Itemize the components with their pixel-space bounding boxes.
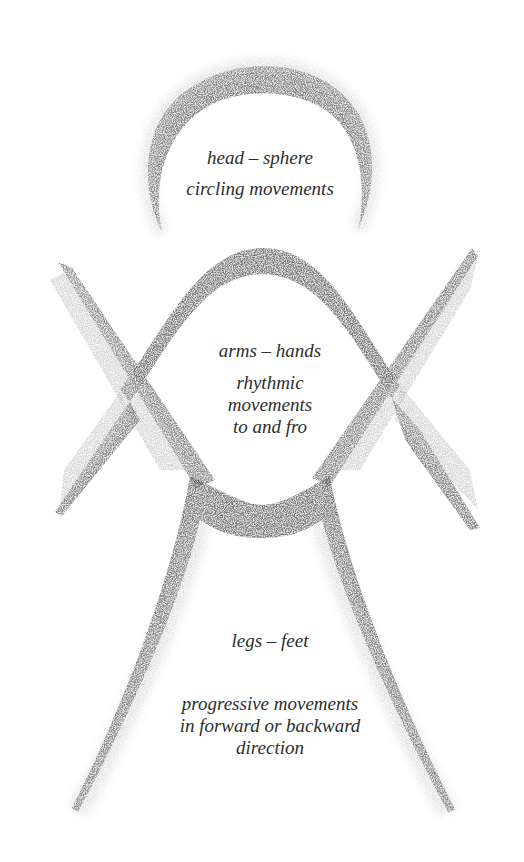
head-description-label: circling movements bbox=[130, 178, 390, 200]
legs-description-label: progressive movements in forward or back… bbox=[120, 693, 420, 759]
head-title-label: head – sphere bbox=[130, 147, 390, 169]
arms-description-label: rhythmic movements to and fro bbox=[150, 372, 390, 438]
legs-title-label: legs – feet bbox=[150, 630, 390, 652]
arms-title-label: arms – hands bbox=[150, 340, 390, 362]
